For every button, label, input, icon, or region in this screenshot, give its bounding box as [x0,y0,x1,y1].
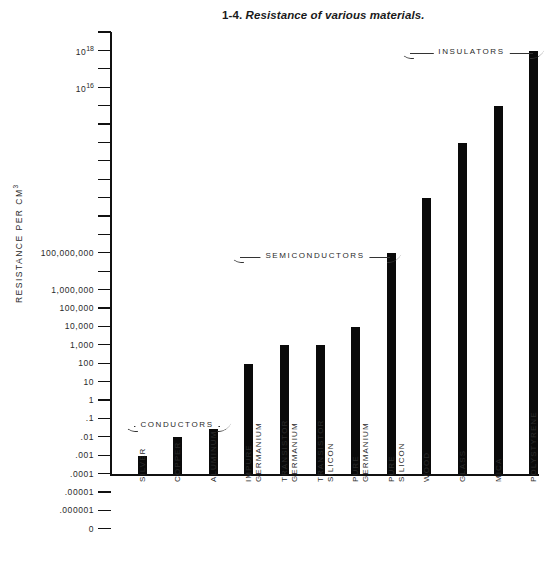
y-axis-tick-label: 10 [83,377,94,387]
y-axis-tick [98,326,111,327]
y-axis-tick-label: 1,000,000 [51,285,94,295]
bar-wood [422,198,431,474]
y-axis-tick [98,123,111,124]
x-axis-label-silver: SILVER [138,448,148,482]
y-axis-tick-label: .001 [75,450,94,460]
y-axis-tick [98,399,111,400]
y-axis-tick-label: .000001 [59,505,94,515]
x-axis-label-pure-silicon: PURE SILICON [387,442,406,482]
y-axis-tick-label: 1018 [76,45,94,57]
y-axis-tick [98,510,111,511]
y-axis-tick-label: 100,000 [59,303,94,313]
y-axis-title-exponent: 3 [12,185,19,189]
y-axis-tick-label: 1016 [76,82,94,94]
figure-title: 1-4. Resistance of various materials. [222,9,425,21]
x-axis-label-polystyrene: POLYSTYRENE [529,411,539,482]
y-axis-tick [98,381,111,382]
figure-caption: Resistance of various materials. [246,9,425,21]
x-axis-label-pure-germanium: PURE GERMANIUM [351,422,370,482]
y-axis-tick [98,455,111,456]
y-axis-tick [98,87,111,88]
group-label-semiconductors: SEMICONDUCTORS [260,251,369,260]
y-axis-tick-label: 100,000,000 [41,248,94,258]
y-axis-tick-label: .01 [81,432,94,442]
y-axis-tick [98,50,111,51]
y-axis-tick-label: .00001 [65,487,94,497]
group-label-conductors: CONDUCTORS [135,420,218,429]
y-axis-tick [98,68,111,69]
figure-number: 1-4. [222,9,242,21]
y-axis-tick-label: .0001 [70,469,94,479]
x-axis-label-transistor-silicon: TRANSISTOR SILICON [316,420,335,482]
y-axis-title: RESISTANCE PER CM3 [12,164,24,324]
y-axis-tick [98,215,111,216]
y-axis-tick [98,105,111,106]
group-label-insulators: INSULATORS [433,47,509,56]
y-axis-tick [98,363,111,364]
y-axis-tick-label: 1 [89,395,94,405]
y-axis-tick-label: 0 [89,524,94,534]
x-axis-label-copper: COPPER [173,442,183,482]
x-axis-label-wood: WOOD [422,452,432,482]
x-axis-label-transistor-germanium: TRANSISTOR GERMANIUM [280,420,299,482]
group-bracket-conductors: CONDUCTORS [124,420,230,434]
y-axis-tick [98,197,111,198]
x-axis-label-impure-germanium: IMPURE GERMANIUM [244,422,263,482]
y-axis-line [110,32,112,475]
y-axis-tick [98,271,111,272]
y-axis-tick [98,436,111,437]
group-bracket-insulators: INSULATORS [400,47,543,61]
x-axis-label-glass: GLASS [458,450,468,482]
y-axis-tick-label: 10,000 [65,321,94,331]
y-axis-tick [98,344,111,345]
group-bracket-semiconductors: SEMICONDUCTORS [230,251,400,265]
y-axis-tick [98,179,111,180]
y-axis-tick [98,234,111,235]
bar-mica [494,106,503,474]
y-axis-tick [98,252,111,253]
bar-pure-silicon [387,253,396,474]
y-axis-tick [98,528,111,529]
x-axis-label-mica: MICA [494,458,504,482]
y-axis-tick [98,160,111,161]
y-axis-tick [98,142,111,143]
y-axis-tick [98,307,111,308]
y-axis-tick [98,289,111,290]
y-axis-tick [98,31,111,32]
y-axis-title-text: RESISTANCE PER CM [14,188,24,303]
y-axis-tick-label: 100 [78,358,94,368]
y-axis-tick [98,491,111,492]
y-axis-tick [98,473,111,474]
bar-glass [458,143,467,474]
x-axis-label-aluminum: ALUMINUM [209,431,219,482]
y-axis-tick [98,418,111,419]
y-axis-tick-label: .1 [86,413,94,423]
y-axis-tick-label: 1,000 [70,340,94,350]
